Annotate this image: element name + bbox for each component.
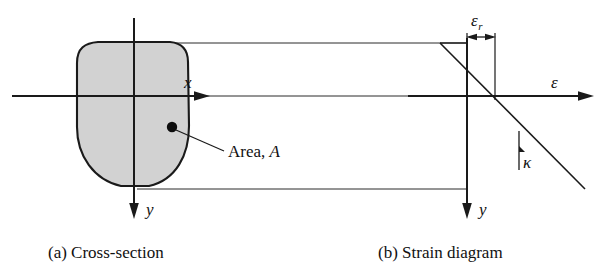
area-label-symbol: A <box>269 142 281 161</box>
strain-distribution-line <box>440 43 585 189</box>
strain-r-label-subscript: r <box>478 20 483 32</box>
figure-root: x y Area, A (a) Cross-section <box>0 0 613 270</box>
panel-a-x-axis-label: x <box>183 73 192 92</box>
panel-b-strain-axis-label: ε <box>551 73 558 92</box>
curvature-angle-arc <box>519 146 525 152</box>
panel-a-y-axis-arrowhead <box>129 203 139 219</box>
strain-r-label: εr <box>471 11 483 32</box>
panel-b-caption: (b) Strain diagram <box>378 243 503 262</box>
panel-b-y-axis-label: y <box>477 200 487 219</box>
panel-b-y-axis-arrowhead <box>462 203 472 219</box>
panel-b-strain-diagram: εr ε y κ (b) Strain diagram <box>378 11 594 262</box>
strain-r-label-symbol: ε <box>471 11 478 30</box>
strain-r-dimension-arrow-right <box>485 34 496 41</box>
panel-b-strain-axis-arrowhead <box>578 91 594 101</box>
figure-svg: x y Area, A (a) Cross-section <box>0 0 613 270</box>
panel-a-x-axis-arrowhead <box>194 91 210 101</box>
centroid-dot <box>167 122 177 132</box>
area-label: Area, A <box>228 142 281 161</box>
panel-a-caption: (a) Cross-section <box>48 243 164 262</box>
area-label-text: Area, <box>228 142 270 161</box>
curvature-label: κ <box>523 153 532 172</box>
panel-a-y-axis-label: y <box>144 200 154 219</box>
panel-a-cross-section: x y Area, A (a) Cross-section <box>12 18 281 262</box>
